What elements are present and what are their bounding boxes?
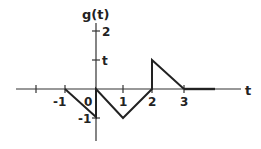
x-tick-label: 2 <box>148 95 156 109</box>
signal-plot: g(t) t -1 0 1 2 3 2 t -1 <box>0 0 261 149</box>
x-tick-label: -1 <box>53 95 66 109</box>
x-axis-label: t <box>245 83 251 98</box>
y-tick-label: -1 <box>78 112 91 126</box>
x-tick-label: 3 <box>180 95 188 109</box>
y-tick-label: 2 <box>102 25 110 39</box>
x-tick-label: 0 <box>84 95 92 109</box>
x-tick-label: 1 <box>119 95 127 109</box>
y-tick-label: t <box>102 54 108 68</box>
y-axis-label: g(t) <box>82 7 109 22</box>
